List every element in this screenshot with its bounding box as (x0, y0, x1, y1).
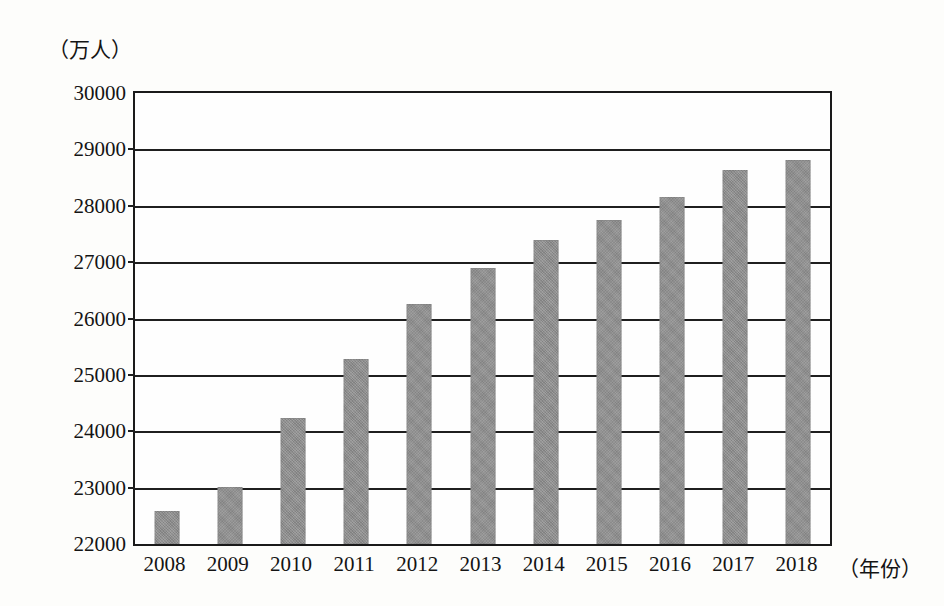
x-tick-label: 2018 (775, 552, 817, 577)
y-tick-mark (128, 430, 135, 432)
bar (660, 197, 685, 544)
x-axis-unit-label: （年份） (838, 552, 922, 582)
y-tick-label: 27000 (74, 250, 127, 275)
bar (533, 240, 558, 544)
bar (723, 170, 748, 544)
bars-layer (135, 93, 830, 544)
y-tick-mark (128, 205, 135, 207)
x-tick-label: 2012 (396, 552, 438, 577)
y-tick-mark (128, 261, 135, 263)
x-tick-label: 2015 (586, 552, 628, 577)
bar (407, 304, 432, 544)
bar (470, 268, 495, 544)
bar-chart-figure: （万人） 22000230002400025000260002700028000… (0, 0, 944, 606)
x-tick-label: 2008 (144, 552, 186, 577)
y-tick-label: 23000 (74, 475, 127, 500)
bar (596, 220, 621, 544)
y-tick-label: 22000 (74, 532, 127, 557)
bar (154, 511, 179, 544)
y-tick-label: 26000 (74, 306, 127, 331)
y-tick-mark (128, 318, 135, 320)
x-tick-label: 2009 (207, 552, 249, 577)
y-tick-label: 29000 (74, 137, 127, 162)
bar (786, 160, 811, 544)
y-axis-unit-label: （万人） (48, 33, 132, 63)
bar (280, 418, 305, 544)
y-tick-mark (128, 374, 135, 376)
x-tick-label: 2016 (649, 552, 691, 577)
plot-area: 2200023000240002500026000270002800029000… (133, 91, 832, 546)
y-tick-label: 28000 (74, 193, 127, 218)
y-tick-label: 24000 (74, 419, 127, 444)
x-axis-tick-labels: 2008200920102011201220132014201520162017… (133, 552, 832, 584)
y-tick-label: 25000 (74, 362, 127, 387)
y-tick-mark (128, 148, 135, 150)
x-tick-label: 2013 (460, 552, 502, 577)
y-tick-label: 30000 (74, 81, 127, 106)
x-tick-label: 2011 (334, 552, 375, 577)
bar (344, 359, 369, 544)
bar (217, 487, 242, 545)
y-tick-mark (128, 487, 135, 489)
x-tick-label: 2010 (270, 552, 312, 577)
x-tick-label: 2017 (712, 552, 754, 577)
x-tick-label: 2014 (523, 552, 565, 577)
